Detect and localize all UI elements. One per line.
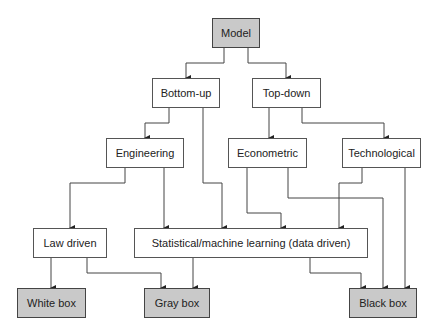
node-model: Model bbox=[212, 18, 260, 48]
node-econometric: Econometric bbox=[228, 138, 307, 168]
node-statistical-ml: Statistical/machine learning (data drive… bbox=[134, 228, 368, 258]
node-engineering: Engineering bbox=[106, 138, 184, 168]
node-law-driven: Law driven bbox=[33, 228, 107, 258]
node-white-box: White box bbox=[17, 288, 86, 318]
node-black-box: Black box bbox=[349, 288, 417, 318]
node-bottom-up: Bottom-up bbox=[152, 78, 220, 108]
node-technological: Technological bbox=[342, 138, 421, 168]
node-gray-box: Gray box bbox=[144, 288, 210, 318]
node-top-down: Top-down bbox=[252, 78, 321, 108]
